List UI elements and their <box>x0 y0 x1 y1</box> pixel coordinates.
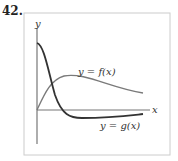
g-curve-label: y = g(x) <box>99 120 140 131</box>
x-axis-label: x <box>152 104 158 115</box>
graph-frame <box>24 13 170 155</box>
f-curve-label: y = f(x) <box>77 66 116 77</box>
y-axis-label: y <box>34 18 41 29</box>
f-curve <box>37 75 143 110</box>
graph: y x y = f(x) y = g(x) <box>0 0 178 161</box>
g-curve <box>37 43 143 118</box>
